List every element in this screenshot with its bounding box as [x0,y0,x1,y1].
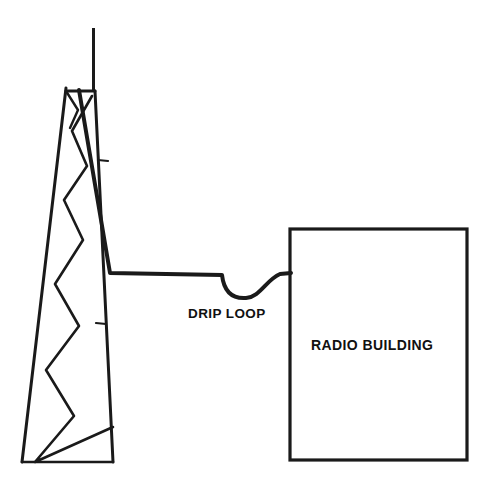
tower-tick-member-1 [98,160,108,161]
diagram-svg [0,0,493,488]
tower-cross-bracing [35,96,113,462]
drip-loop-label: DRIP LOOP [188,306,266,321]
tower-leg-right [95,91,113,462]
radio-building-label: RADIO BUILDING [311,337,433,353]
diagram-canvas: DRIP LOOP RADIO BUILDING [0,0,493,488]
transmission-line-cable [79,90,291,298]
tower-tick-member-2 [96,323,106,324]
